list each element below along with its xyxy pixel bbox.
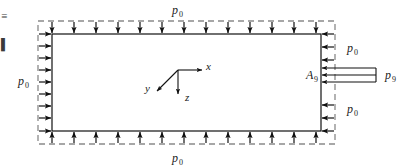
x-axis-label: x: [205, 60, 211, 72]
label-p0-top: p 0: [171, 3, 183, 19]
top-pressure-arrows: [52, 22, 316, 33]
label-p0-right-lower: p 0: [346, 102, 358, 118]
label-p0-bottom: p 0: [171, 151, 183, 165]
label-a9-exit-area: A 9: [305, 68, 318, 84]
coordinate-axes: [157, 70, 202, 94]
left-margin-fragment-bottom: ▌: [1, 37, 9, 52]
y-axis-label: y: [144, 82, 150, 94]
label-p9-right-symbol: p: [384, 68, 391, 82]
label-p0-top-subscript: 0: [179, 10, 183, 19]
left-pressure-arrows: [39, 34, 51, 131]
z-axis-label: z: [184, 91, 190, 103]
nozzle-exit-arrows: [322, 68, 376, 82]
label-p0-bottom-symbol: p: [171, 151, 178, 165]
y-axis-arrow: [157, 70, 178, 91]
label-p0-left: p 0: [17, 74, 29, 90]
label-a9-subscript: 9: [314, 75, 318, 84]
left-margin-fragment-top: ≡: [1, 10, 7, 22]
label-p0-top-symbol: p: [171, 3, 178, 17]
label-p0-right-upper-subscript: 0: [354, 48, 358, 57]
label-p9-right-subscript: 9: [392, 75, 396, 84]
label-p0-right-lower-subscript: 0: [354, 109, 358, 118]
diagram-canvas: p 0 p 0 p 0 p 0 p 0 p 9 A: [0, 0, 411, 165]
label-a9-symbol: A: [305, 68, 314, 82]
label-p0-left-subscript: 0: [25, 81, 29, 90]
label-p0-right-upper: p 0: [346, 41, 358, 57]
bottom-pressure-arrows: [52, 132, 316, 143]
label-p0-right-upper-symbol: p: [346, 41, 353, 55]
pressure-loading-diagram: p 0 p 0 p 0 p 0 p 0 p 9 A: [0, 0, 411, 165]
inner-solid-body: [52, 34, 321, 131]
label-p0-left-symbol: p: [17, 74, 24, 88]
label-p9-right: p 9: [384, 68, 396, 84]
label-p0-bottom-subscript: 0: [179, 158, 183, 165]
outer-dashed-boundary: [38, 21, 335, 144]
label-p0-right-lower-symbol: p: [346, 102, 353, 116]
